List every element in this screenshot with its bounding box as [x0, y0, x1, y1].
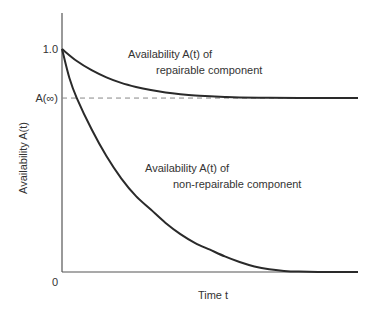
y-tick-label-a-infinity: A(∞)	[35, 92, 58, 104]
repairable-curve-label-line1: Availability A(t) of	[128, 48, 213, 60]
non-repairable-curve-label-line1: Availability A(t) of	[145, 162, 230, 174]
y-tick-label-1: 1.0	[43, 43, 58, 55]
y-axis-label: Availability A(t)	[17, 122, 29, 194]
non-repairable-curve-label-line2: non-repairable component	[173, 178, 301, 190]
non-repairable-availability-curve	[62, 49, 358, 272]
y-tick-label-0: 0	[52, 276, 58, 288]
x-axis-label: Time t	[198, 289, 228, 301]
chart: 1.0 A(∞) 0 Availability A(t) of repairab…	[0, 0, 374, 314]
repairable-curve-label-line2: repairable component	[156, 64, 262, 76]
